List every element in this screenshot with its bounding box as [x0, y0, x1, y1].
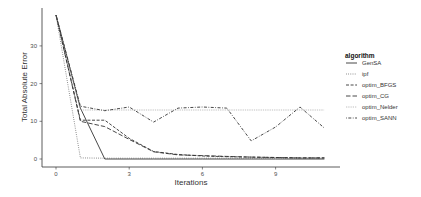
- legend-item: optim_Nelder: [346, 104, 398, 110]
- y-tick-label: 20: [30, 81, 37, 87]
- series-line-gensa: [56, 15, 324, 159]
- x-axis-title: Iterations: [175, 178, 208, 187]
- x-tick-label: 6: [201, 171, 205, 177]
- x-tick-label: 0: [54, 171, 58, 177]
- legend-item: optim_SANN: [346, 115, 397, 121]
- legend-item: ipf: [346, 71, 369, 77]
- legend-label: ipf: [362, 71, 369, 77]
- legend-label: GenSA: [362, 60, 381, 66]
- legend-item: GenSA: [346, 60, 381, 66]
- y-tick-label: 0: [34, 156, 38, 162]
- y-tick-label: 30: [30, 43, 37, 49]
- y-axis-title: Total Absolute Error: [20, 52, 29, 122]
- series-line-optim-bfgs: [56, 15, 324, 158]
- y-ticks: 0 10 20 30: [30, 43, 42, 162]
- legend-label: optim_CG: [362, 93, 389, 99]
- series-line-optim-sann: [56, 15, 324, 141]
- series-line-optim-nelder: [56, 15, 324, 110]
- legend-label: optim_SANN: [362, 115, 397, 121]
- x-tick-label: 3: [128, 171, 132, 177]
- series-line-optim-cg: [56, 15, 324, 158]
- x-ticks: 0 3 6 9: [54, 167, 278, 177]
- legend-label: optim_BFGS: [362, 82, 396, 88]
- legend-item: optim_CG: [346, 93, 389, 99]
- legend-item: optim_BFGS: [346, 82, 396, 88]
- legend: algorithm GenSAipfoptim_BFGSoptim_CGopti…: [345, 52, 398, 121]
- legend-label: optim_Nelder: [362, 104, 398, 110]
- series-line-ipf: [56, 15, 324, 158]
- line-chart: 0 10 20 30 0 3 6 9 Iterations Total Abso…: [0, 0, 421, 197]
- x-tick-label: 9: [274, 171, 278, 177]
- series-layer: [56, 15, 324, 159]
- y-tick-label: 10: [30, 118, 37, 124]
- legend-title: algorithm: [345, 52, 375, 60]
